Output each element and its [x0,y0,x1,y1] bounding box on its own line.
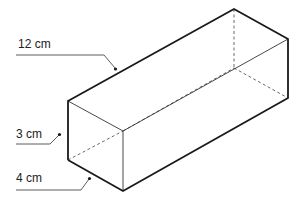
leaders [16,55,115,190]
rectangular-prism-diagram: 12 cm 3 cm 4 cm [0,0,303,205]
label-height: 3 cm [16,127,42,141]
edge-top-long-near [123,39,288,131]
leader-length [16,55,115,68]
inner-edges [68,39,288,191]
hidden-edge-back-right [234,68,288,98]
dot-height [58,133,61,136]
hidden-edges [68,9,288,160]
edge-front-top-diagonal [68,101,123,131]
hidden-edge-left-bottom [68,131,123,160]
dot-length [114,67,117,70]
leader-dots [58,67,117,180]
label-width: 4 cm [16,171,42,185]
label-length: 12 cm [18,37,51,51]
dot-width [88,177,91,180]
